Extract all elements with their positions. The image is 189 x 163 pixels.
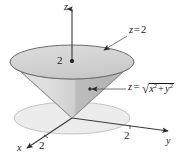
plane-label-leader <box>104 36 127 50</box>
plane-equation-label: z=2 <box>129 25 146 36</box>
cone-figure: z 2 2 y 2 x z=2 z= √ x2+y2 <box>0 0 189 163</box>
y-axis-label: y <box>166 136 170 146</box>
plane-equation-value: 2 <box>141 24 146 35</box>
cone-equation-equals: = <box>132 82 141 93</box>
z-axis-tick-label: 2 <box>57 55 63 66</box>
radical-sign-icon: √ <box>142 83 149 96</box>
x-axis-tick-label: 2 <box>39 140 45 151</box>
radicand-exponent-y: 2 <box>170 82 173 89</box>
z-axis-label: z <box>64 2 68 12</box>
radical-expression: √ x2+y2 <box>142 82 174 95</box>
cone-label-anchor-dot <box>88 87 91 90</box>
cone-equation-label: z= √ x2+y2 <box>128 82 174 95</box>
z-tick-point <box>70 59 74 63</box>
radicand: x2+y2 <box>149 83 174 95</box>
x-axis-label: x <box>17 143 21 153</box>
plane-equation-equals: = <box>133 24 141 35</box>
radicand-plus: + <box>157 83 165 94</box>
y-axis-tick-label: 2 <box>124 130 130 141</box>
